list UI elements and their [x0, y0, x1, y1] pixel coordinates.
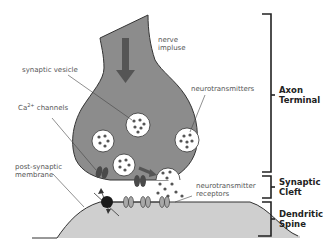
section-label-synaptic-cleft: Synaptic Cleft	[279, 178, 321, 197]
synaptic-vesicle	[175, 128, 199, 152]
synaptic-vesicle	[92, 130, 114, 152]
section-label-axon-terminal: Axon Terminal	[279, 86, 320, 105]
neurotransmitter-receptors-label: neurotransmitter receptors	[196, 182, 256, 198]
section-brackets	[258, 14, 275, 236]
synaptic-vesicle	[126, 113, 150, 137]
calcium-channels-label: Ca2+ channels	[18, 104, 68, 112]
post-synaptic-membrane-label: post-synaptic membrane	[15, 163, 62, 179]
section-label-dendritic-spine: Dendritic Spine	[279, 210, 323, 229]
neurotransmitters-label: neurotransmitters	[191, 85, 254, 93]
synaptic-vesicle-label: synaptic vesicle	[22, 66, 78, 74]
synaptic-vesicle	[113, 154, 135, 176]
nerve-impulse-label: nerve impluse	[158, 36, 186, 52]
